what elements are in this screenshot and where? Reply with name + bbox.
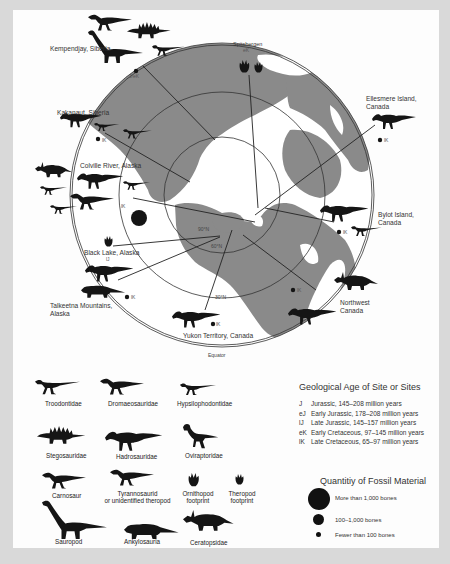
site-dot-talkeetna (125, 295, 129, 299)
legend-label-theropod-footprint: Theropodfootprint (226, 490, 258, 504)
site-age-colville: lK (121, 203, 125, 209)
legend-label-dromaeosauridae: Dromaeosauridae (108, 400, 158, 407)
qty-label-medium: 100–1,000 bones (335, 517, 381, 523)
site-dot-ellesmere (378, 138, 382, 142)
age-row-j: JJurassic, 145–208 million years (299, 399, 424, 409)
ceratopsid-silhouette (183, 510, 234, 531)
dromaeosaur-silhouette (100, 379, 144, 395)
age-row-ej: eJEarly Jurassic, 178–208 million years (299, 409, 424, 419)
legend-label-carnosaur: Carnosaur (52, 492, 81, 499)
site-label-colville: Colville River, Alaska (80, 162, 141, 170)
site-age-ellesmere: lK (384, 137, 388, 143)
site-dot-yukon (211, 322, 215, 326)
ornithopod-footprint (189, 473, 199, 486)
site-age-nwcanada: lK (297, 287, 301, 293)
site-age-blacklake: lJ (106, 256, 110, 262)
site-age-kempendjay: J/eK (129, 73, 139, 79)
dot-medium (313, 514, 324, 525)
legend-label-stegosauridae: Stegosauridae (46, 452, 87, 459)
theropod-footprint (235, 474, 243, 485)
site-label-ellesmere: Ellesmere Island,Canada (366, 95, 417, 111)
site-dot-nwcanada (291, 288, 295, 292)
legend-label-tyrannosaurid: Tyrannosauridor unidentified theropod (101, 490, 174, 504)
age-row-lj: lJLate Jurassic, 145–157 million years (299, 418, 424, 428)
ring-label-60n: 60°N (211, 243, 222, 249)
fossil-quantity-title: Quantitiy of Fossil Material (320, 476, 426, 486)
globe (70, 43, 374, 347)
qty-label-small: Fewer than 100 bones (335, 532, 395, 538)
ring-label-30n: 30°N (215, 294, 226, 300)
sauropod-silhouette (42, 501, 107, 539)
site-label-bylot: Bylot Island,Canada (378, 211, 414, 227)
qty-label-large: More than 1,000 bones (335, 495, 397, 501)
legend-label-sauropod: Sauropod (55, 538, 82, 545)
legend-label-oviraptoridae: Oviraptoridae (185, 452, 223, 459)
site-label-kempendjay: Kempendjay, Siberia (50, 45, 110, 53)
dot-large (308, 488, 330, 510)
site-age-talkeetna: lK (131, 294, 135, 300)
site-label-blacklake: Black Lake, Alaska (84, 249, 139, 257)
site-dot-bylot (337, 230, 341, 234)
site-label-yukon: Yukon Territory, Canada (183, 332, 253, 340)
site-age-yukon: lK (216, 321, 220, 327)
troodontid-silhouette (35, 380, 80, 394)
site-age-bylot: lK (343, 229, 347, 235)
site-age-kakanaut: lK (102, 137, 106, 143)
legend-label-ornithopod-footprint: Ornithopodfootprint (180, 490, 216, 504)
carnosaur-silhouette (42, 473, 86, 489)
hadrosaur-silhouette (105, 432, 162, 451)
dot-small (316, 532, 321, 537)
tyrannosaur-silhouette (110, 470, 154, 486)
legend-label-troodontidae: Troodontidae (45, 400, 82, 407)
age-row-ek: eKEarly Cretaceous, 97–145 million years (299, 428, 424, 438)
legend-label-hadrosauridae: Hadrosauridae (116, 453, 157, 460)
site-label-kakanaut: Kakanaut, Siberia (57, 109, 109, 117)
hypsilophodont-silhouette (180, 384, 216, 396)
site-dot-kakanaut (96, 137, 100, 141)
legend-label-hypsilophodontidae: Hypsilophodontidae (177, 400, 232, 407)
oviraptor-silhouette (183, 424, 218, 448)
site-label-nwcanada: NorthwestCanada (340, 299, 370, 315)
pole-label: 90°N (198, 226, 209, 232)
legend-label-ceratopsidae: Ceratopsidae (190, 539, 227, 546)
geological-age-legend: Geological Age of Site or Sites JJurassi… (299, 382, 424, 447)
ring-label-equator: Equator (208, 352, 226, 358)
geological-age-title: Geological Age of Site or Sites (299, 382, 424, 392)
site-label-talkeetna: Talkeetna Mountains,Alaska (50, 302, 112, 318)
site-dot-colville (131, 210, 147, 226)
legend-label-ankylosauria: Ankylosauria (124, 538, 160, 545)
age-row-lk: lKLate Cretaceous, 65–97 million years (299, 437, 424, 447)
site-age-spitsbergen: eK (243, 47, 249, 53)
ankylosaur-silhouette (124, 524, 179, 539)
stegosaur-silhouette (37, 426, 85, 444)
